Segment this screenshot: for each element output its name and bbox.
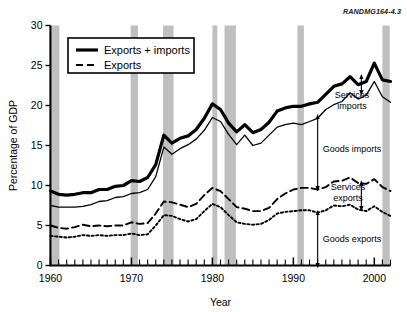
- y-tick-label: 20: [31, 99, 43, 111]
- recession-band: [297, 26, 303, 266]
- series-line: [51, 204, 391, 238]
- y-axis-title: Percentage of GDP: [7, 100, 19, 191]
- x-tick-label: 1960: [39, 272, 63, 284]
- annotation-label: Goods imports: [323, 144, 382, 154]
- y-tick-label: 5: [37, 219, 43, 231]
- recession-band: [52, 26, 59, 266]
- annotation-label: Servicesexports: [331, 182, 366, 203]
- y-tick-label: 25: [31, 59, 43, 71]
- recession-band: [212, 26, 217, 266]
- x-tick-label: 1970: [120, 272, 144, 284]
- legend-label: Exports + imports: [104, 44, 190, 56]
- recession-band: [225, 26, 236, 266]
- annotation-arrows: ServicesimportsGoods importsServicesexpo…: [318, 77, 382, 266]
- y-tick-label: 15: [31, 139, 43, 151]
- figure-container: RANDMG164-4.3 051015202530 1960197019801…: [0, 0, 407, 312]
- y-tick-label: 0: [37, 259, 43, 271]
- annotation-label: Servicesimports: [335, 90, 370, 111]
- recession-band: [382, 26, 389, 266]
- legend-box: Exports + importsExports: [68, 38, 194, 73]
- x-tick-label: 1990: [282, 272, 306, 284]
- annotation-label: Goods exports: [323, 234, 382, 244]
- figure-id-label: RANDMG164-4.3: [343, 7, 401, 16]
- gdp-trade-line-chart: 051015202530 19601970198019902000 Servic…: [0, 0, 407, 312]
- y-tick-label: 10: [31, 179, 43, 191]
- series-line: [51, 63, 391, 195]
- legend-label: Exports: [104, 59, 142, 71]
- x-axis-title: Year: [210, 296, 232, 308]
- y-tick-label: 30: [31, 19, 43, 31]
- x-tick-label: 1980: [201, 272, 225, 284]
- y-axis-ticks: 051015202530: [31, 19, 51, 271]
- x-tick-label: 2000: [363, 272, 387, 284]
